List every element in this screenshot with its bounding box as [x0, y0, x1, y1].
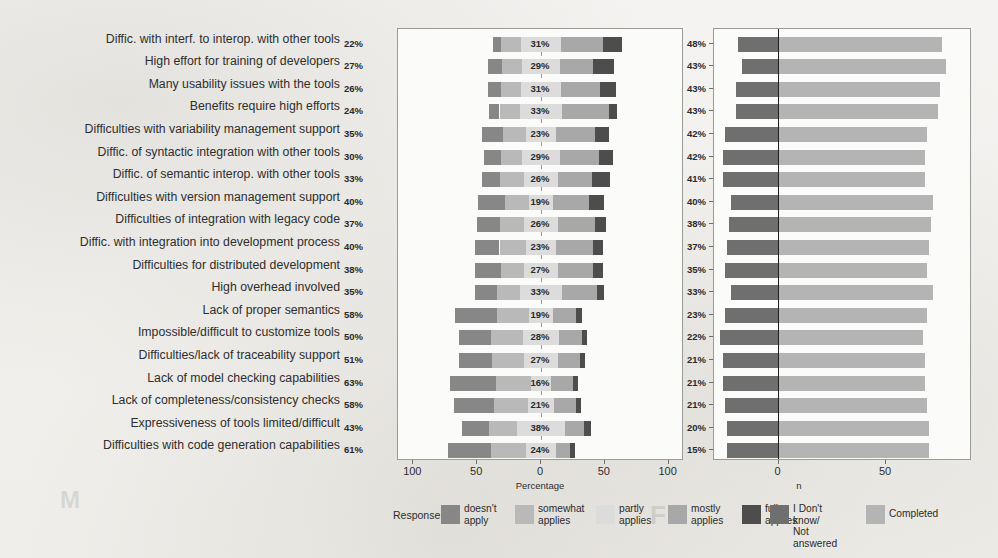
count-bar-row — [714, 259, 970, 283]
negative-percent-label: 30% — [344, 145, 384, 169]
count-segment-not-answered — [725, 398, 779, 413]
count-bar-row — [714, 146, 970, 170]
positive-percent-label: 37% — [666, 235, 706, 259]
legend-swatch — [866, 505, 885, 524]
category-label: Diffic. with integration into developmen… — [0, 230, 340, 254]
positive-percent-label: 21% — [666, 348, 706, 372]
negative-percent-label: 61% — [344, 438, 384, 462]
y-tick — [709, 382, 713, 383]
negative-percent-label: 37% — [344, 212, 384, 236]
count-bar-row — [714, 100, 970, 124]
n-tick — [778, 460, 779, 464]
x-tick — [412, 460, 413, 464]
count-segment-not-answered — [736, 82, 779, 97]
legend-label: partly applies — [619, 503, 651, 526]
negative-percent-label: 38% — [344, 258, 384, 282]
count-segment-not-answered — [723, 150, 779, 165]
count-bar-row — [714, 168, 970, 192]
negative-percent-label: 58% — [344, 303, 384, 327]
positive-percent-label: 43% — [666, 54, 706, 78]
y-tick — [709, 178, 713, 179]
legend-swatch — [596, 505, 615, 524]
count-bar-row — [714, 417, 970, 441]
category-label: Lack of model checking capabilities — [0, 366, 340, 390]
count-panel — [713, 28, 971, 460]
count-segment-completed — [779, 172, 925, 187]
count-segment-not-answered — [720, 330, 778, 345]
negative-percent-label: 40% — [344, 235, 384, 259]
legend: Response doesn't applysomewhat appliespa… — [0, 497, 998, 541]
count-segment-not-answered — [731, 285, 778, 300]
positive-percent-label: 48% — [666, 32, 706, 56]
legend-swatch — [515, 505, 534, 524]
n-tick-label: 50 — [865, 465, 905, 477]
category-label: Diffic. of syntactic integration with ot… — [0, 140, 340, 164]
count-bar-row — [714, 33, 970, 57]
count-bar-row — [714, 304, 970, 328]
count-bar-row — [714, 236, 970, 260]
count-segment-completed — [779, 240, 930, 255]
category-label: Expressiveness of tools limited/difficul… — [0, 411, 340, 435]
negative-percent-label: 33% — [344, 167, 384, 191]
negative-percent-label: 22% — [344, 32, 384, 56]
positive-percent-label: 43% — [666, 99, 706, 123]
x-axis-title-n: n — [739, 480, 859, 491]
x-tick — [540, 460, 541, 464]
count-segment-not-answered — [742, 59, 779, 74]
neutral-percent-label: 31% — [523, 32, 557, 56]
neutral-percent-column: 31%29%31%33%23%29%26%19%26%23%27%33%19%2… — [397, 28, 683, 460]
y-tick — [709, 427, 713, 428]
count-segment-completed — [779, 308, 927, 323]
count-bar-row — [714, 439, 970, 463]
y-tick — [709, 404, 713, 405]
count-bar-row — [714, 372, 970, 396]
neutral-percent-label: 29% — [523, 54, 557, 78]
y-tick — [709, 336, 713, 337]
count-segment-not-answered — [727, 421, 779, 436]
count-segment-completed — [779, 127, 927, 142]
y-tick — [709, 201, 713, 202]
category-label: Lack of completeness/consistency checks — [0, 388, 340, 412]
y-tick — [709, 110, 713, 111]
count-segment-completed — [779, 398, 927, 413]
count-segment-not-answered — [738, 37, 779, 52]
count-bar-row — [714, 213, 970, 237]
count-segment-completed — [779, 443, 930, 458]
count-segment-completed — [779, 263, 927, 278]
count-segment-not-answered — [723, 376, 779, 391]
legend-swatch — [770, 505, 789, 524]
x-tick-label: 100 — [392, 465, 432, 477]
count-bar-row — [714, 281, 970, 305]
negative-percent-label: 35% — [344, 122, 384, 146]
x-axis-title-percentage: Percentage — [480, 480, 600, 491]
count-segment-completed — [779, 59, 947, 74]
positive-percent-label: 21% — [666, 393, 706, 417]
x-tick-label: 50 — [584, 465, 624, 477]
category-axis-labels: Diffic. with interf. to interop. with ot… — [0, 28, 340, 460]
zero-reference-line — [778, 29, 780, 459]
count-segment-not-answered — [725, 308, 779, 323]
category-label: Diffic. of semantic interop. with other … — [0, 162, 340, 186]
x-tick-label: 50 — [456, 465, 496, 477]
neutral-percent-label: 33% — [523, 99, 557, 123]
figure-root: Diffic. with interf. to interop. with ot… — [0, 0, 998, 558]
positive-percent-label: 43% — [666, 77, 706, 101]
count-segment-completed — [779, 195, 934, 210]
legend-label: mostly applies — [691, 503, 723, 526]
positive-percent-label: 42% — [666, 145, 706, 169]
positive-percent-label: 22% — [666, 325, 706, 349]
category-label: Difficulties/lack of traceability suppor… — [0, 343, 340, 367]
positive-percent-label: 42% — [666, 122, 706, 146]
x-tick — [668, 460, 669, 464]
neutral-percent-label: 26% — [523, 167, 557, 191]
category-label: High overhead involved — [0, 275, 340, 299]
y-tick — [709, 246, 713, 247]
category-label: Difficulties of integration with legacy … — [0, 207, 340, 231]
negative-percent-label: 43% — [344, 416, 384, 440]
y-tick — [709, 359, 713, 360]
legend-label: somewhat applies — [538, 503, 584, 526]
neutral-percent-label: 27% — [523, 348, 557, 372]
count-bar-row — [714, 191, 970, 215]
count-bar-row — [714, 394, 970, 418]
category-label: Difficulties with code generation capabi… — [0, 433, 340, 457]
